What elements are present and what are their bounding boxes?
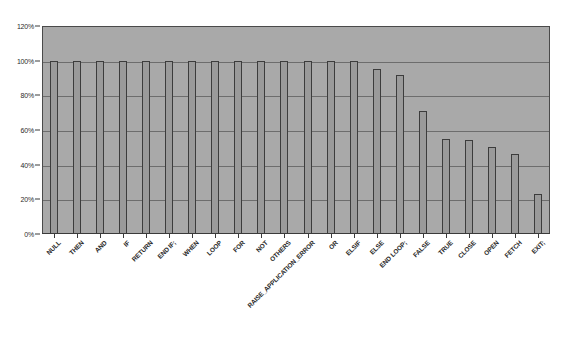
bar-chart: 0%20%40%60%80%100%120% NULLTHENANDIFRETU… (0, 0, 565, 341)
x-tick-label: OPEN (483, 239, 501, 257)
y-tick-label: 60% (21, 127, 34, 134)
bar (257, 61, 265, 234)
y-tick-mark (35, 164, 40, 165)
y-tick-label: 100% (17, 57, 34, 64)
x-tick-label: ELSE (368, 239, 385, 256)
x-tick-label: FOR (232, 239, 246, 253)
x-tick-mark (100, 234, 101, 238)
x-axis: NULLTHENANDIFRETURNEND IF;WHENLOOPFORNOT… (42, 239, 550, 339)
bar (534, 194, 542, 234)
bar (419, 111, 427, 234)
x-tick-mark (446, 234, 447, 238)
y-tick-mark (35, 60, 40, 61)
x-tick-mark (238, 234, 239, 238)
bar (96, 61, 104, 234)
x-tick-mark (308, 234, 309, 238)
x-tick-mark (331, 234, 332, 238)
x-tick-label: NOT (255, 239, 269, 253)
y-axis: 0%20%40%60%80%100%120% (0, 26, 40, 234)
x-tick-mark (515, 234, 516, 238)
x-tick-mark (423, 234, 424, 238)
y-tick-mark (35, 95, 40, 96)
bar (304, 61, 312, 234)
x-tick-label: WHEN (181, 239, 200, 258)
x-tick-mark (377, 234, 378, 238)
x-tick-mark (215, 234, 216, 238)
bar (211, 61, 219, 234)
x-tick-label: THEN (67, 239, 84, 256)
bar (327, 61, 335, 234)
x-tick-label: OTHERS (269, 239, 293, 263)
bar (119, 61, 127, 234)
x-tick-label: ELSIF (344, 239, 362, 257)
bar (465, 140, 473, 234)
x-tick-mark (169, 234, 170, 238)
bar (165, 61, 173, 234)
x-tick-mark (77, 234, 78, 238)
x-tick-label: NULL (45, 239, 62, 256)
y-tick-mark (35, 26, 40, 27)
x-tick-mark (492, 234, 493, 238)
y-tick-mark (35, 199, 40, 200)
x-tick-label: END IF; (156, 239, 177, 260)
bar (511, 154, 519, 234)
x-tick-label: OR (327, 239, 339, 251)
bar (373, 69, 381, 234)
x-axis-line (42, 233, 550, 234)
x-tick-label: IF (122, 239, 131, 248)
bar (142, 61, 150, 234)
y-tick-label: 40% (21, 161, 34, 168)
x-tick-label: FETCH (503, 239, 523, 259)
y-tick-label: 120% (17, 23, 34, 30)
bar (396, 75, 404, 234)
y-tick-label: 80% (21, 92, 34, 99)
bar (234, 61, 242, 234)
y-tick-mark (35, 130, 40, 131)
x-tick-mark (469, 234, 470, 238)
x-tick-label: CLOSE (457, 239, 477, 259)
y-tick-label: 0% (24, 231, 34, 238)
x-tick-mark (123, 234, 124, 238)
bars-container (42, 26, 550, 234)
y-tick-mark (35, 234, 40, 235)
x-tick-mark (400, 234, 401, 238)
x-tick-mark (538, 234, 539, 238)
bar (50, 61, 58, 234)
bar (442, 139, 450, 234)
x-tick-label: FALSE (412, 239, 431, 258)
x-tick-label: LOOP (205, 239, 223, 257)
bar (188, 61, 196, 234)
x-tick-label: TRUE (437, 239, 454, 256)
y-tick-label: 20% (21, 196, 34, 203)
bar (73, 61, 81, 234)
x-tick-mark (284, 234, 285, 238)
x-tick-label: RETURN (130, 239, 154, 263)
x-tick-label: EXIT; (531, 239, 547, 255)
x-tick-mark (354, 234, 355, 238)
bar (488, 147, 496, 234)
bar (280, 61, 288, 234)
x-tick-mark (146, 234, 147, 238)
x-tick-mark (261, 234, 262, 238)
x-tick-label: AND (93, 239, 108, 254)
x-tick-mark (192, 234, 193, 238)
x-tick-mark (54, 234, 55, 238)
bar (350, 61, 358, 234)
